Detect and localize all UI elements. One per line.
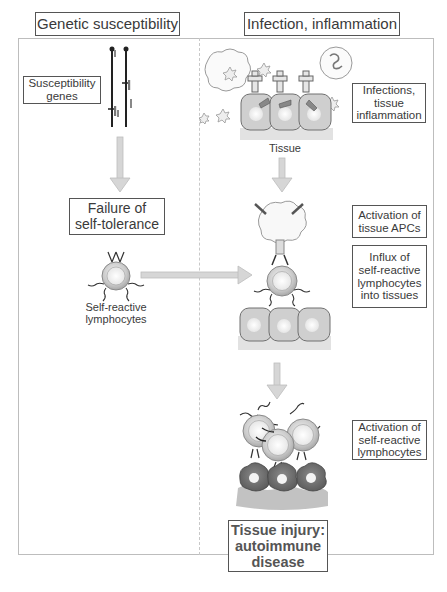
label-infections-tissue-inflammation: Infections, tissue inflammation xyxy=(352,83,426,123)
injured-tissue-icon xyxy=(236,463,328,510)
label-activation-of-tissue-apcs: Activation of tissue APCs xyxy=(352,205,427,238)
arrow-down-left-icon xyxy=(110,137,130,192)
label-self-reactive-lymphocytes: Self-reactive lymphocytes xyxy=(70,301,162,326)
activated-lymphocytes-icon xyxy=(240,402,320,470)
lymphocyte-icon xyxy=(88,252,144,301)
label-tissue: Tissue xyxy=(260,142,310,154)
arrow-down-right-1-icon xyxy=(272,158,292,192)
tissue-icon xyxy=(240,71,333,140)
arrow-right-icon xyxy=(141,266,252,284)
label-susceptibility-genes: Susceptibility genes xyxy=(23,76,101,104)
apc-icon xyxy=(254,201,310,306)
label-failure-of-self-tolerance: Failure of self-tolerance xyxy=(69,198,165,235)
label-activation-of-self-reactive-lymphocytes: Activation of self-reactive lymphocytes xyxy=(352,420,427,460)
label-tissue-injury-autoimmune-disease: Tissue injury: autoimmune disease xyxy=(228,520,328,572)
header-infection-inflammation: Infection, inflammation xyxy=(244,12,400,36)
header-genetic-susceptibility: Genetic susceptibility xyxy=(35,12,180,36)
label-influx-of-self-reactive-lymphocytes: Influx of self-reactive lymphocytes into… xyxy=(352,245,427,308)
tissue-2-icon xyxy=(238,308,331,350)
chromosome-icon xyxy=(108,47,132,128)
arrow-down-right-2-icon xyxy=(267,363,287,399)
